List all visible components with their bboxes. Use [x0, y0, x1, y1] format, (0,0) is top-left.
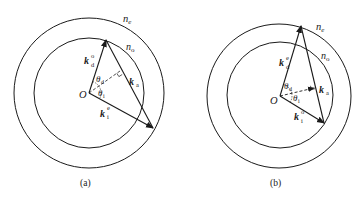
- svg-text:i: i: [298, 98, 300, 104]
- right-angle-mark: [311, 86, 316, 90]
- svg-text:o: o: [301, 108, 304, 115]
- label-ne: ne: [316, 21, 324, 34]
- svg-text:i: i: [301, 117, 303, 124]
- figure-b: ne no O k e d k o i k a θ d θ i (b): [207, 21, 351, 189]
- caption-b: (b): [270, 178, 281, 189]
- label-theta-i: θ i: [98, 88, 105, 99]
- figure-a: ne no O k o d k e i k a θ d θ i (a): [14, 13, 164, 189]
- svg-text:a: a: [326, 89, 329, 96]
- label-ki: k e i: [100, 104, 110, 120]
- svg-text:a: a: [136, 81, 139, 88]
- vector-ka-line: [301, 26, 324, 123]
- label-theta-d: θ d: [96, 74, 104, 85]
- svg-text:k: k: [319, 84, 324, 95]
- svg-text:i: i: [107, 113, 109, 120]
- svg-text:d: d: [289, 86, 292, 92]
- svg-text:d: d: [91, 61, 95, 68]
- label-kd: k e d: [279, 54, 290, 70]
- label-origin: O: [270, 95, 278, 106]
- wave-vector-diagrams: ne no O k o d k e i k a θ d θ i (a): [0, 0, 362, 198]
- svg-text:k: k: [294, 111, 299, 122]
- outer-circle-ne: [207, 24, 351, 168]
- svg-text:k: k: [84, 55, 89, 66]
- svg-text:o: o: [91, 52, 94, 59]
- label-theta-d: θ d: [284, 81, 292, 92]
- label-no: no: [126, 41, 135, 54]
- svg-text:e: e: [107, 104, 110, 111]
- label-no: no: [321, 50, 330, 63]
- label-ne: ne: [123, 13, 131, 26]
- right-angle-mark: [117, 73, 122, 76]
- label-ka: k a: [319, 84, 329, 96]
- svg-text:d: d: [101, 79, 104, 85]
- label-ki: k o i: [294, 108, 304, 124]
- svg-text:k: k: [279, 57, 284, 68]
- label-origin: O: [79, 89, 87, 100]
- svg-text:k: k: [129, 76, 134, 87]
- label-kd: k o d: [84, 52, 95, 68]
- caption-a: (a): [80, 178, 91, 189]
- svg-text:e: e: [286, 54, 289, 61]
- angle-arc-i: [290, 93, 292, 102]
- label-ka: k a: [129, 76, 139, 88]
- svg-text:k: k: [100, 108, 105, 119]
- svg-text:i: i: [103, 93, 105, 99]
- label-theta-i: θ i: [293, 93, 300, 104]
